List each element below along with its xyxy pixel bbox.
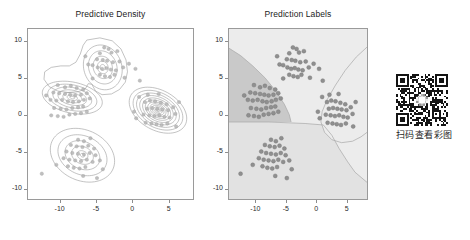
- data-point: [143, 100, 146, 103]
- y-tick-mark: [225, 41, 228, 42]
- data-point: [103, 75, 106, 78]
- data-point: [95, 58, 98, 61]
- data-point: [344, 108, 348, 112]
- data-point: [251, 163, 255, 167]
- data-point: [239, 172, 243, 176]
- data-point: [331, 106, 335, 110]
- data-point: [291, 45, 295, 49]
- data-point: [76, 152, 79, 155]
- data-point: [107, 47, 110, 50]
- data-point: [290, 167, 294, 171]
- data-point: [91, 160, 94, 163]
- data-point: [85, 110, 88, 113]
- data-point: [74, 112, 77, 115]
- data-point: [260, 164, 264, 168]
- y-tick-label: 0: [202, 110, 223, 117]
- data-point: [337, 113, 341, 117]
- y-tick-mark: [24, 152, 27, 153]
- data-point: [69, 143, 72, 146]
- data-point: [299, 73, 303, 77]
- data-point: [296, 68, 300, 72]
- data-point: [76, 138, 79, 141]
- data-point: [77, 100, 80, 103]
- data-point: [109, 68, 112, 71]
- y-tick-label: -10: [202, 184, 223, 191]
- data-point: [258, 92, 262, 96]
- y-tick-label: 10: [202, 36, 223, 43]
- data-point: [172, 106, 175, 109]
- data-point: [87, 144, 90, 147]
- data-point: [78, 167, 81, 170]
- data-point: [52, 91, 55, 94]
- data-point: [257, 156, 261, 160]
- data-point: [156, 107, 159, 110]
- data-point: [269, 138, 273, 142]
- data-point: [100, 67, 103, 70]
- x-tick-mark: [169, 200, 170, 203]
- data-point: [327, 93, 331, 97]
- data-point: [134, 67, 137, 70]
- y-tick-mark: [24, 189, 27, 190]
- data-point: [163, 115, 166, 118]
- data-point: [101, 168, 104, 171]
- data-point: [85, 158, 88, 161]
- data-point: [264, 151, 268, 155]
- data-point: [114, 69, 117, 72]
- y-tick-mark: [24, 78, 27, 79]
- data-point: [257, 115, 261, 119]
- data-point: [278, 62, 282, 66]
- data-point: [304, 59, 308, 63]
- data-point: [302, 49, 306, 53]
- data-point: [76, 106, 79, 109]
- y-tick-mark: [24, 41, 27, 42]
- data-point: [74, 94, 77, 97]
- data-point: [295, 47, 299, 51]
- data-point: [79, 111, 82, 114]
- y-tick-mark: [225, 78, 228, 79]
- data-point: [69, 84, 72, 87]
- data-point: [333, 114, 337, 118]
- y-tick-label: 10: [1, 36, 22, 43]
- data-point: [337, 92, 341, 96]
- data-point: [174, 125, 177, 128]
- data-point: [298, 60, 302, 64]
- data-point: [259, 107, 263, 111]
- data-point: [118, 60, 121, 63]
- data-point: [74, 159, 77, 162]
- data-point: [81, 174, 84, 177]
- data-point: [101, 58, 104, 61]
- x-tick-label: -5: [272, 205, 300, 212]
- qr-code-block[interactable]: 扫码查看彩图: [396, 74, 448, 141]
- data-point: [292, 74, 296, 78]
- data-point: [40, 172, 43, 175]
- data-point: [269, 152, 273, 156]
- data-point: [273, 105, 277, 109]
- data-point: [98, 159, 101, 162]
- qr-code-icon[interactable]: [396, 74, 448, 126]
- data-point: [252, 114, 256, 118]
- data-point: [260, 99, 264, 103]
- data-point: [297, 51, 301, 55]
- data-point: [82, 140, 85, 143]
- x-tick-label: 5: [155, 205, 183, 212]
- data-point: [316, 110, 320, 114]
- data-point: [157, 92, 160, 95]
- data-point: [134, 117, 137, 120]
- data-point: [103, 46, 106, 49]
- data-point: [287, 73, 291, 77]
- data-point: [91, 77, 94, 80]
- data-point: [344, 121, 348, 125]
- data-point: [123, 76, 126, 79]
- data-point: [159, 101, 162, 104]
- data-point: [153, 114, 156, 117]
- data-point: [98, 52, 101, 55]
- predictive-density-canvas: [28, 29, 194, 200]
- data-point: [281, 76, 285, 80]
- data-point: [113, 73, 116, 76]
- x-tick-label: 5: [333, 205, 361, 212]
- data-point: [293, 59, 297, 63]
- y-tick-mark: [24, 115, 27, 116]
- data-point: [105, 59, 108, 62]
- data-point: [258, 85, 262, 89]
- data-point: [270, 99, 274, 103]
